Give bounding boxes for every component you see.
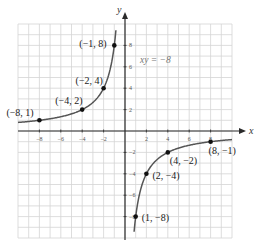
y-tick-label: 6 [129,64,132,70]
y-tick-label: 4 [129,85,132,91]
data-point [112,43,117,48]
y-tick-label: 8 [129,42,132,48]
x-tick-label: −8 [36,136,42,142]
point-label: (−4, 2) [55,95,82,107]
hyperbola-chart: x y −8−6−4−22468−8−6−4−22468 xy = −8 (−8… [0,0,258,244]
x-tick-label: 4 [166,136,169,142]
point-label: (−2, 4) [76,75,103,87]
y-tick-label: 2 [129,107,132,113]
data-point [80,107,85,112]
data-point [133,214,138,219]
y-axis-label: y [116,4,122,15]
data-point [166,150,171,155]
y-axis-arrow-icon [122,12,128,19]
y-tick-label: −6 [129,192,135,198]
point-label: (2, −4) [152,170,179,182]
data-point [208,139,213,144]
point-label: (1, −8) [142,212,169,224]
point-label: (4, −2) [170,155,197,167]
point-label: (8, −1) [209,145,236,157]
data-point [144,172,149,177]
x-axis-label: x [248,125,254,136]
y-tick-label: −2 [129,149,135,155]
point-label: (−1, 8) [79,38,106,50]
y-tick-label: −4 [129,171,135,177]
point-label: (−8, 1) [6,107,33,119]
x-tick-label: 6 [188,136,191,142]
x-axis-arrow-icon [239,128,246,134]
data-point [101,86,106,91]
x-tick-label: −6 [58,136,64,142]
data-point [37,118,42,123]
x-tick-label: −2 [100,136,106,142]
equation-label: xy = −8 [139,55,171,65]
x-tick-label: 2 [145,136,148,142]
x-tick-label: −4 [79,136,85,142]
